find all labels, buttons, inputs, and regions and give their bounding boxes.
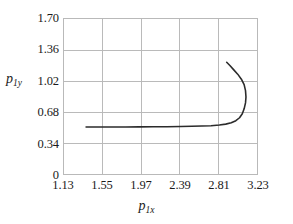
data-series-line [86, 62, 246, 127]
y-axis-title-subscript: 1y [13, 78, 22, 88]
x-axis-tick-labels: 1.13 1.55 1.97 2.39 2.81 3.23 [63, 179, 258, 195]
y-tick-label: 1.36 [3, 43, 59, 56]
y-tick-label: 0.68 [3, 106, 59, 119]
chart-figure: 1.70 1.36 1.02 0.68 0.34 0 p1y 1.13 1.55 [0, 0, 293, 224]
y-axis-title-base: p [6, 71, 13, 86]
plot-area [63, 18, 258, 175]
data-curve-layer [64, 19, 257, 174]
x-tick-label: 3.23 [234, 179, 282, 192]
y-axis-tick-labels: 1.70 1.36 1.02 0.68 0.34 0 [0, 18, 59, 175]
x-axis-title-subscript: 1x [146, 205, 155, 215]
y-tick-label: 1.70 [3, 12, 59, 25]
x-axis-title: p1x [0, 198, 293, 215]
y-axis-title: p1y [6, 71, 22, 88]
x-axis-title-base: p [139, 198, 146, 213]
y-tick-label: 0.34 [3, 138, 59, 151]
